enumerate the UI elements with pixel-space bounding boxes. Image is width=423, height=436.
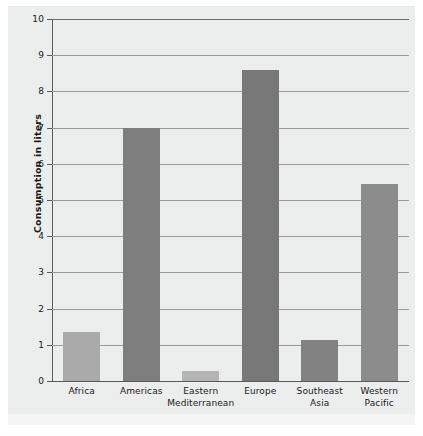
gridline-1 [52,345,409,346]
y-axis-tick-mark-8 [47,91,52,92]
y-axis-tick-mark-2 [47,309,52,310]
y-axis-tick-mark-1 [47,345,52,346]
gridline-5 [52,200,409,201]
bar-chart-figure: 109876543210 Consumption in liters Afric… [0,0,423,436]
y-axis-tick-label-8: 8 [38,86,44,96]
bar-southeast-asia[interactable] [301,340,338,381]
bar-americas[interactable] [123,128,160,381]
x-axis-label-line: Pacific [337,398,423,410]
y-axis-tick-mark-5 [47,200,52,201]
gridline-7 [52,128,409,129]
y-axis-tick-label-9: 9 [38,50,44,60]
y-axis-tick-label-0: 0 [38,376,44,386]
gridline-3 [52,272,409,273]
y-axis-tick-label-10: 10 [32,14,44,24]
y-axis-tick-label-1: 1 [38,340,44,350]
gridline-2 [52,309,409,310]
bar-western-pacific[interactable] [361,184,398,381]
y-axis-tick-mark-10 [47,19,52,20]
plot-area [52,19,409,381]
gridline-4 [52,236,409,237]
gridline-10 [52,19,409,20]
y-axis-tick-label-2: 2 [38,304,44,314]
x-axis-line [52,381,409,382]
y-axis-title: Consumption in liters [32,104,43,244]
gridline-8 [52,91,409,92]
x-axis-label-line: Mediterranean [158,398,244,410]
x-axis-label-line: Western [337,386,423,398]
bar-europe[interactable] [242,70,279,381]
y-axis-tick-mark-3 [47,272,52,273]
x-axis-label-western-pacific: WesternPacific [337,386,423,409]
bar-eastern-mediterranean[interactable] [182,371,219,381]
y-axis-tick-mark-0 [47,381,52,382]
y-axis-tick-mark-4 [47,236,52,237]
y-axis-tick-mark-9 [47,55,52,56]
bar-africa[interactable] [63,332,100,381]
y-axis-tick-mark-6 [47,164,52,165]
page-bottom-strip [8,414,415,425]
y-axis-tick-label-3: 3 [38,267,44,277]
gridline-6 [52,164,409,165]
gridline-9 [52,55,409,56]
y-axis-tick-mark-7 [47,128,52,129]
